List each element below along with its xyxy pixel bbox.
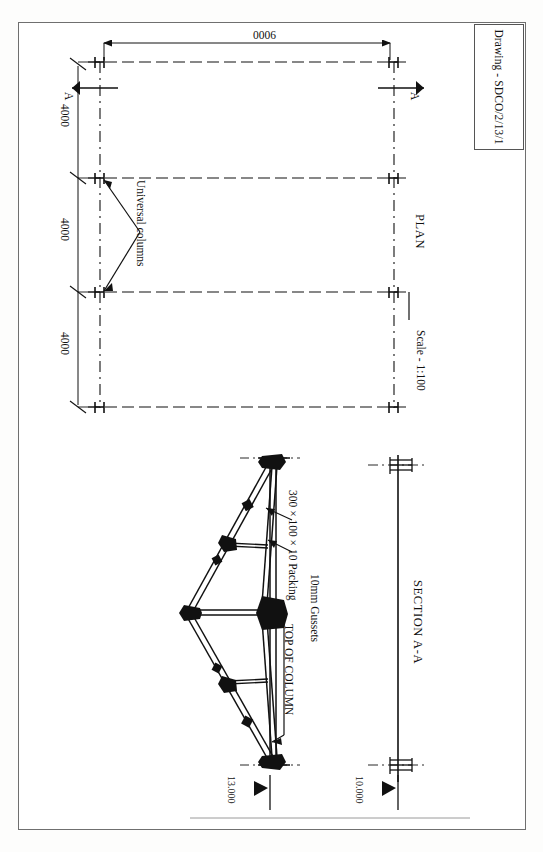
drawing-border [18, 22, 526, 830]
plan-span-dimension-label: 0006 [253, 30, 276, 42]
plan-bay-dimension-1: 4000 [59, 104, 71, 127]
plan-title: PLAN [414, 214, 427, 249]
section-mark-label-left: A [63, 92, 75, 100]
title-block-label: Drawing - SDCO/2/13/1 [493, 29, 505, 144]
packing-label: 300 × 100 × 10 Packing [287, 490, 299, 600]
title-block: Drawing - SDCO/2/13/1 [474, 24, 524, 150]
top-of-column-label: TOP OF COLUMN [283, 624, 295, 715]
universal-columns-label: Universal columns [135, 180, 147, 267]
level-label-13: 13.000 [226, 776, 236, 804]
section-title: SECTION A-A [412, 580, 425, 664]
gussets-label: 10mm Gussets [309, 574, 321, 642]
plan-bay-dimension-2: 4000 [59, 218, 71, 241]
section-mark-label-right: A [409, 92, 421, 100]
plan-bay-dimension-3: 4000 [59, 332, 71, 355]
level-label-10: 10.000 [354, 776, 364, 804]
plan-scale-label: Scale - 1:100 [415, 330, 427, 391]
drawing-sheet: Drawing - SDCO/2/13/1 0006 4000 4000 400… [0, 0, 543, 852]
